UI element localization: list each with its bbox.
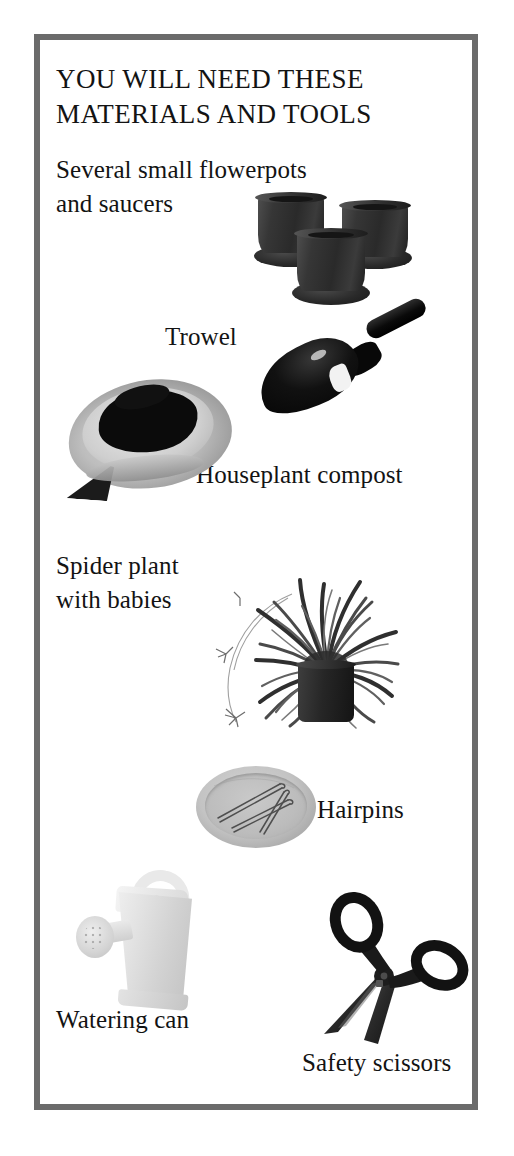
page-title: YOU WILL NEED THESE MATERIALS AND TOOLS: [56, 62, 372, 132]
label-safety-scissors: Safety scissors: [302, 1048, 451, 1077]
label-trowel: Trowel: [165, 322, 237, 351]
hairpins-in-saucer-icon: [196, 766, 316, 852]
label-hairpins: Hairpins: [317, 795, 404, 824]
safety-scissors-icon: [312, 884, 472, 1049]
materials-and-tools-page: YOU WILL NEED THESE MATERIALS AND TOOLS …: [0, 0, 514, 1156]
spider-plant-icon: [196, 536, 416, 746]
watering-can-icon: [74, 866, 222, 1016]
compost-bag-icon: [62, 372, 242, 502]
label-spider-plant: Spider plant with babies: [56, 549, 179, 617]
trowel-icon: [252, 303, 427, 428]
flowerpots-icon: [250, 183, 415, 308]
